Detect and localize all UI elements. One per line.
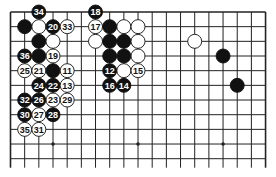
black-stone [117,34,131,48]
stone-circle [89,34,103,48]
black-stone: 16 [103,78,117,92]
black-stone: 36 [18,49,32,63]
move-number: 24 [34,81,44,91]
black-stone: 22 [46,78,60,92]
white-stone [131,20,145,34]
star-point [136,142,140,146]
black-stone [230,78,244,92]
black-stone [46,64,60,78]
go-board: 3418203317361925211112152422131614322623… [0,0,276,177]
move-number: 14 [119,81,129,91]
move-number: 34 [34,7,44,17]
white-stone: 17 [89,20,103,34]
black-stone: 34 [32,5,46,19]
black-stone: 24 [32,78,46,92]
white-stone: 23 [46,93,60,107]
black-stone: 28 [46,108,60,122]
move-number: 30 [20,110,30,120]
white-stone: 15 [131,64,145,78]
black-stone: 26 [32,93,46,107]
white-stone [117,20,131,34]
white-stone: 35 [18,122,32,136]
move-number: 35 [20,125,30,135]
black-stone: 18 [89,5,103,19]
white-stone: 27 [32,108,46,122]
stone-circle [117,34,131,48]
move-number: 36 [20,51,30,61]
stone-circle [32,49,46,63]
black-stone [18,20,32,34]
stone-circle [103,20,117,34]
move-number: 32 [20,95,30,105]
move-number: 20 [48,22,58,32]
move-number: 31 [34,125,44,135]
move-number: 11 [62,66,72,76]
black-stone [216,49,230,63]
white-stone: 31 [32,122,46,136]
stone-circle [131,20,145,34]
stone-circle [131,34,145,48]
move-number: 22 [48,81,58,91]
move-number: 27 [34,110,44,120]
white-stone [131,34,145,48]
white-stone: 13 [60,78,74,92]
white-stone: 25 [18,64,32,78]
move-number: 26 [34,95,44,105]
move-number: 28 [48,110,58,120]
black-stone [117,49,131,63]
white-stone [89,34,103,48]
stone-circle [230,78,244,92]
move-number: 19 [48,51,58,61]
white-stone: 11 [60,64,74,78]
stone-circle [46,64,60,78]
move-number: 17 [91,22,101,32]
stone-circle [32,34,46,48]
black-stone [32,49,46,63]
stone-circle [46,34,60,48]
move-number: 13 [62,81,72,91]
white-stone: 29 [60,93,74,107]
stone-circle [216,49,230,63]
white-stone [117,64,131,78]
move-number: 15 [133,66,143,76]
black-stone: 32 [18,93,32,107]
stone-circle [103,49,117,63]
stone-circle [188,34,202,48]
stone-circle [131,49,145,63]
star-point [221,142,225,146]
move-number: 25 [20,66,30,76]
stone-circle [117,20,131,34]
black-stone [32,34,46,48]
move-number: 33 [62,22,72,32]
black-stone [103,20,117,34]
white-stone [46,34,60,48]
move-number: 12 [105,66,115,76]
black-stone [103,49,117,63]
stone-circle [32,20,46,34]
move-number: 16 [105,81,115,91]
black-stone [103,34,117,48]
black-stone: 12 [103,64,117,78]
white-stone: 33 [60,20,74,34]
stone-circle [103,34,117,48]
stone-circle [117,49,131,63]
black-stone: 20 [46,20,60,34]
move-number: 29 [62,95,72,105]
stone-circle [18,20,32,34]
move-number: 21 [34,66,44,76]
move-number: 18 [91,7,101,17]
star-point [51,142,55,146]
black-stone: 14 [117,78,131,92]
white-stone [131,49,145,63]
white-stone: 19 [46,49,60,63]
black-stone: 30 [18,108,32,122]
white-stone [188,34,202,48]
move-number: 23 [48,95,58,105]
white-stone [32,20,46,34]
white-stone: 21 [32,64,46,78]
stone-circle [117,64,131,78]
